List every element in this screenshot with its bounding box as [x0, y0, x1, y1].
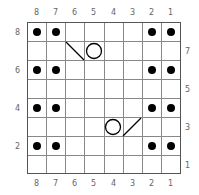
- yarn-over-icon: [87, 44, 102, 59]
- yarn-over-icon: [106, 120, 121, 135]
- right-decrease-icon: [123, 118, 141, 136]
- left-decrease-icon: [66, 42, 84, 60]
- chart-grid: [0, 0, 199, 195]
